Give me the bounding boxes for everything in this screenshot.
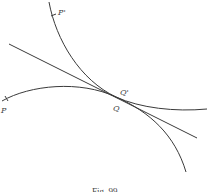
label-p: P <box>0 106 7 115</box>
flat-curve <box>2 86 207 110</box>
figure-caption: Fig. 99 <box>92 186 118 192</box>
tangent-line <box>9 44 197 138</box>
label-p-prime: P' <box>57 8 66 17</box>
steep-curve <box>49 2 186 172</box>
diagram-canvas: P' Q' Q P Fig. 99 <box>0 0 209 192</box>
label-q: Q <box>113 104 120 113</box>
label-q-prime: Q' <box>120 88 129 97</box>
